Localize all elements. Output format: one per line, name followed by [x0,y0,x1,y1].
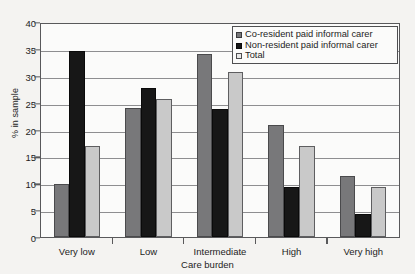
y-tick-label: 5 [6,206,36,217]
x-tick-mark [255,238,256,244]
legend-label: Non-resident paid informal carer [245,40,378,51]
x-tick-label: Intermediate [194,246,247,257]
x-tick-mark [326,238,327,244]
x-tick-label: High [282,246,302,257]
y-tick-label: 20 [6,125,36,136]
y-tick-mark [34,157,40,158]
bar [284,187,300,237]
x-tick-label: Very high [343,246,383,257]
bar [54,184,70,237]
bar-chart-figure: % in sample 0510152025303540 Very lowLow… [0,0,415,274]
bar [141,88,157,237]
y-tick-mark [34,103,40,104]
bar-group [54,24,101,237]
y-tick-label: 10 [6,179,36,190]
bar [212,109,228,237]
legend-item: Total [236,50,394,61]
legend-swatch-icon [236,53,242,59]
x-tick-mark [112,238,113,244]
bar [69,51,85,237]
y-tick-label: 25 [6,98,36,109]
legend-swatch-icon [236,32,242,38]
y-tick-mark [34,130,40,131]
x-axis-title: Care burden [0,259,415,270]
x-tick-label: Very low [59,246,95,257]
bar [299,146,315,237]
bar [85,146,101,237]
y-tick-label: 15 [6,152,36,163]
bar [228,72,244,237]
y-tick-mark [34,210,40,211]
legend-label: Total [245,50,265,61]
y-tick-label: 40 [6,18,36,29]
x-tick-mark [183,238,184,244]
legend-item: Co-resident paid informal carer [236,29,394,40]
bar [197,54,213,237]
bar [125,108,141,237]
y-tick-mark [34,184,40,185]
y-tick-mark [34,76,40,77]
bar [156,99,172,237]
bar [340,176,356,237]
legend-label: Co-resident paid informal carer [245,29,373,40]
x-tick-label: Low [140,246,157,257]
y-tick-mark [34,22,40,23]
legend-item: Non-resident paid informal carer [236,40,394,51]
legend-swatch-icon [236,43,242,49]
bar [355,214,371,237]
y-tick-mark [34,49,40,50]
bar-group [125,24,172,237]
bar [268,125,284,237]
chart-legend: Co-resident paid informal carer Non-resi… [232,26,398,64]
bar [371,187,387,237]
y-tick-mark [34,237,40,238]
y-tick-label: 0 [6,233,36,244]
y-tick-label: 35 [6,44,36,55]
y-tick-label: 30 [6,71,36,82]
